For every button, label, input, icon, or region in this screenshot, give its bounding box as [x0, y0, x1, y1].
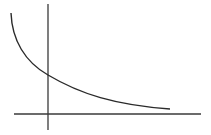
decay-curve [11, 13, 170, 109]
chart-canvas [0, 0, 211, 135]
exponential-decay-chart [0, 0, 211, 135]
